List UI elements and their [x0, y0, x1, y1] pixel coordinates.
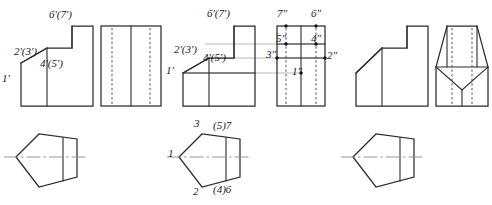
label-middle-side-p1: 1″	[292, 66, 302, 77]
right-top-view	[341, 134, 425, 187]
label-middle-side-p3: 3″	[266, 49, 276, 60]
label-middle-front-p67: 6'(7')	[207, 8, 230, 19]
point-6-double-prime-dot	[314, 24, 317, 27]
right-group	[341, 26, 488, 187]
right-side-view	[436, 26, 488, 106]
label-middle-side-p5: 5″	[276, 33, 286, 44]
label-middle-front-p45: 4'(5')	[203, 52, 226, 63]
left-top-view	[4, 134, 88, 187]
label-left-front-p45: 4'(5')	[40, 58, 63, 69]
point-7-double-prime-dot	[284, 24, 287, 27]
middle-front-view	[183, 26, 255, 106]
label-left-front-p23: 2'(3')	[14, 46, 37, 57]
engineering-drawing-figure: .obj { fill:none; stroke:#2b2b2b; stroke…	[0, 0, 492, 205]
left-side-view	[101, 26, 161, 106]
label-middle-front-p23: 2'(3')	[174, 44, 197, 55]
label-middle-front-p1: 1'	[166, 65, 174, 76]
label-middle-side-p6: 6″	[311, 8, 321, 19]
label-middle-top-p1: 1	[168, 148, 174, 159]
middle-top-view	[167, 134, 251, 187]
label-left-front-p67: 6'(7')	[49, 9, 72, 20]
label-middle-side-p4: 4″	[311, 33, 321, 44]
label-middle-top-p3: 3	[194, 118, 200, 129]
label-middle-side-p7: 7″	[277, 8, 287, 19]
label-middle-top-p2: 2	[193, 186, 199, 197]
label-left-front-p1: 1'	[2, 73, 10, 84]
right-front-view	[356, 26, 428, 106]
label-middle-side-p2: 2″	[327, 50, 337, 61]
label-middle-top-p46: (4)6	[213, 184, 231, 195]
label-middle-top-p57: (5)7	[213, 120, 231, 131]
